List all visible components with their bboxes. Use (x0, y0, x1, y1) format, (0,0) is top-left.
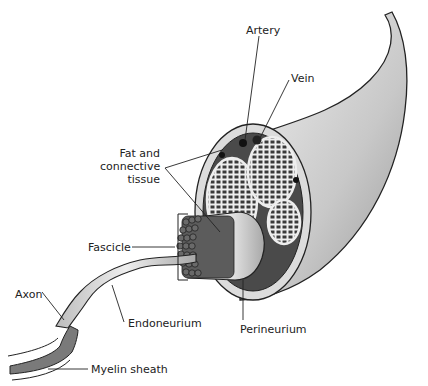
label-fascicle: Fascicle (88, 241, 131, 254)
label-perineurium: Perineurium (240, 323, 307, 336)
label-fat-line3: tissue (100, 173, 160, 186)
label-fat-line1: Fat and (100, 147, 160, 160)
nerve-diagram: Artery Vein Fat and connective tissue Fa… (0, 0, 428, 386)
label-endoneurium: Endoneurium (128, 317, 202, 330)
label-vein: Vein (291, 72, 314, 85)
label-axon: Axon (15, 288, 42, 301)
label-fat-connective-tissue: Fat and connective tissue (100, 147, 160, 186)
nerve-illustration (0, 0, 428, 386)
label-artery: Artery (246, 24, 280, 37)
label-myelin-sheath: Myelin sheath (91, 363, 168, 376)
label-fat-line2: connective (100, 160, 160, 173)
